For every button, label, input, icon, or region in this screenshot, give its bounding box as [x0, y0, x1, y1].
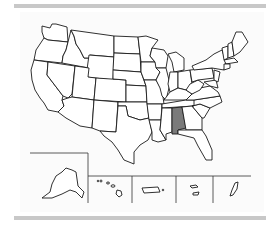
state-new-mexico[interactable] [92, 100, 118, 132]
inset-virgin-islands[interactable] [190, 185, 199, 195]
state-wyoming[interactable] [86, 55, 114, 80]
state-michigan[interactable] [168, 52, 184, 72]
contiguous-us [31, 24, 248, 164]
state-arkansas[interactable] [147, 104, 162, 120]
state-florida[interactable] [178, 130, 212, 160]
inset-alaska[interactable] [42, 168, 84, 198]
state-south-dakota[interactable] [113, 53, 141, 72]
bottom-divider-bar [14, 216, 266, 220]
state-north-dakota[interactable] [114, 36, 140, 54]
state-arizona[interactable] [58, 97, 94, 128]
state-new-jersey[interactable] [214, 70, 220, 82]
state-kansas[interactable] [126, 85, 147, 102]
us-map [0, 0, 273, 226]
inset-hawaii[interactable] [97, 180, 122, 197]
state-maine[interactable] [232, 32, 248, 56]
state-new-york[interactable] [192, 50, 226, 70]
inset-guam[interactable] [230, 182, 238, 196]
state-connecticut[interactable] [224, 64, 230, 70]
inset-puerto-rico[interactable] [142, 187, 164, 193]
state-colorado[interactable] [94, 78, 126, 102]
